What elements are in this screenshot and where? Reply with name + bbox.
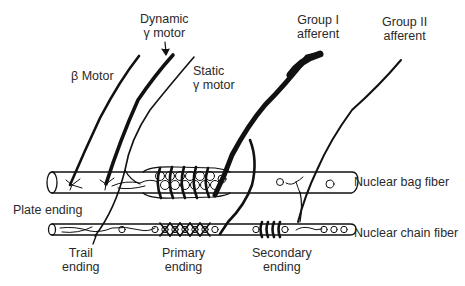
label-line: ending bbox=[252, 260, 312, 274]
label-trail-ending: Trail ending bbox=[62, 246, 100, 274]
label-static-gamma-motor: Static γ motor bbox=[193, 64, 235, 92]
label-line: Secondary bbox=[252, 246, 312, 260]
label-line: Primary bbox=[162, 246, 205, 260]
label-group2-afferent: Group II afferent bbox=[382, 15, 427, 43]
label-line: γ motor bbox=[193, 78, 235, 92]
group2-afferent-fiber bbox=[298, 60, 401, 222]
label-line: Dynamic bbox=[140, 12, 189, 26]
label-secondary-ending: Secondary ending bbox=[252, 246, 312, 274]
static-gamma-fiber bbox=[93, 57, 194, 244]
label-dynamic-gamma-motor: Dynamic γ motor bbox=[140, 12, 189, 40]
label-line: Static bbox=[193, 64, 235, 78]
label-plate-ending: Plate ending bbox=[13, 203, 83, 217]
label-beta-motor: β Motor bbox=[71, 69, 114, 83]
label-nuclear-bag-fiber: Nuclear bag fiber bbox=[354, 175, 449, 189]
label-group1-afferent: Group I afferent bbox=[297, 13, 339, 41]
label-line: afferent bbox=[297, 27, 339, 41]
label-nuclear-chain-fiber: Nuclear chain fiber bbox=[354, 226, 458, 240]
nuclear-chain-fiber bbox=[49, 222, 357, 237]
dynamic-gamma-fiber bbox=[106, 42, 173, 184]
label-line: Group II bbox=[382, 15, 427, 29]
label-line: Trail bbox=[62, 246, 100, 260]
label-line: Group I bbox=[297, 13, 339, 27]
label-line: γ motor bbox=[140, 26, 189, 40]
label-line: ending bbox=[62, 260, 100, 274]
label-line: ending bbox=[162, 260, 205, 274]
label-line: afferent bbox=[382, 29, 427, 43]
label-primary-ending: Primary ending bbox=[162, 246, 205, 274]
